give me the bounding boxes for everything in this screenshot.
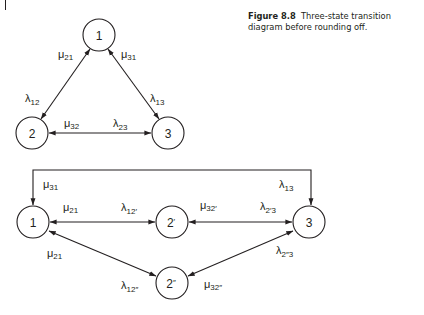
edge-1-2doubleprime — [49, 231, 156, 276]
rate-mu21-doubleprime: μ21 — [47, 247, 63, 261]
state-node-3: 3 — [152, 117, 184, 149]
svg-text:3: 3 — [306, 216, 313, 230]
svg-text:1: 1 — [30, 216, 37, 230]
state-node-2prime: 2′ — [156, 206, 188, 238]
rate-mu32doubleprime: μ32″ — [204, 278, 222, 292]
rate-mu32: μ32 — [64, 117, 80, 131]
bottom-diagram: 1 2′ 2″ 3 μ31 λ13 μ21 λ12′ μ32′ λ2′3 μ21… — [17, 170, 325, 299]
state-node-2doubleprime: 2″ — [156, 267, 188, 299]
rate-mu21-prime: μ21 — [63, 201, 79, 215]
state-node-2: 2 — [16, 117, 48, 149]
rate-mu31: μ31 — [43, 178, 59, 192]
state-node-3: 3 — [293, 206, 325, 238]
rate-lambda12doubleprime: λ12″ — [121, 279, 138, 294]
rate-lambda13: λ13 — [279, 178, 294, 193]
transition-diagrams: 1 2 3 μ21 λ12 μ31 λ13 μ32 λ23 1 — [0, 0, 424, 315]
rate-lambda2prime3: λ2′3 — [260, 200, 276, 215]
rate-lambda23: λ23 — [113, 117, 128, 132]
svg-text:2: 2 — [29, 127, 36, 141]
state-node-1: 1 — [17, 206, 49, 238]
edge-1-3 — [33, 170, 311, 205]
rate-mu21: μ21 — [58, 48, 74, 62]
rate-mu32prime: μ32′ — [200, 199, 217, 213]
top-diagram: 1 2 3 μ21 λ12 μ31 λ13 μ32 λ23 — [16, 19, 184, 149]
rate-lambda12prime: λ12′ — [121, 201, 137, 216]
svg-text:3: 3 — [165, 127, 172, 141]
rate-lambda2doubleprime3: λ2″3 — [276, 244, 294, 259]
svg-text:1: 1 — [96, 29, 103, 43]
rate-lambda13: λ13 — [150, 92, 165, 107]
rate-lambda12: λ12 — [25, 92, 40, 107]
state-node-1: 1 — [83, 19, 115, 51]
rate-mu31: μ31 — [121, 48, 137, 62]
